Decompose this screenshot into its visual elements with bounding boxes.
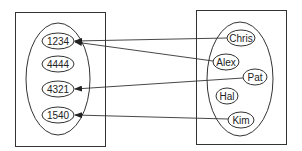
arrow-pat-to-4321 <box>75 78 243 89</box>
name-node-chris: Chris <box>227 30 255 46</box>
arrow-alex-to-1234 <box>75 42 213 61</box>
number-set-group: 1234 4444 4321 1540 <box>16 13 106 147</box>
name-label: Kim <box>232 115 249 126</box>
name-node-kim: Kim <box>228 112 254 128</box>
name-label: Pat <box>247 72 262 83</box>
number-label: 1540 <box>47 110 70 121</box>
number-node-1540: 1540 <box>42 107 74 123</box>
arrow-chris-to-1234 <box>75 38 227 41</box>
name-set-group: Chris Alex Pat Hal Kim <box>197 11 287 145</box>
name-node-hal: Hal <box>216 88 238 104</box>
name-label: Chris <box>229 33 252 44</box>
name-label: Hal <box>219 91 234 102</box>
name-node-pat: Pat <box>243 69 267 85</box>
number-label: 1234 <box>47 36 70 47</box>
number-label: 4444 <box>47 59 70 70</box>
number-node-4444: 4444 <box>42 56 74 72</box>
number-node-4321: 4321 <box>42 81 74 97</box>
number-label: 4321 <box>47 84 70 95</box>
number-node-1234: 1234 <box>42 33 74 49</box>
name-node-alex: Alex <box>213 54 239 70</box>
name-label: Alex <box>216 57 235 68</box>
mapping-diagram: 1234 4444 4321 1540 Chris Alex Pat <box>0 0 302 151</box>
arrow-kim-to-1540 <box>75 115 228 119</box>
